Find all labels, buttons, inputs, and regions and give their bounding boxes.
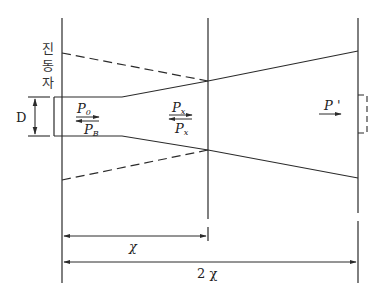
forward-pressure-label: Px <box>171 100 186 116</box>
output-pressure-label: P ' <box>323 98 340 113</box>
incident-pressure-label: P0 <box>76 101 91 117</box>
diameter-label: D <box>16 110 26 125</box>
vibrator-label-1: 진 <box>42 41 54 56</box>
tube-top-edge <box>54 51 358 97</box>
vibrator-label-3: 자 <box>42 75 54 90</box>
vibrator-label-2: 동 <box>42 58 54 73</box>
dashed-lower-left <box>62 150 208 180</box>
reflected-pressure-label: PB <box>83 122 99 138</box>
horn-diagram: D 진 동 자 P0 PB Px Px P ' χ 2 χ <box>0 0 388 295</box>
chi-label: χ <box>128 239 138 254</box>
backward-pressure-label: Px <box>174 121 189 137</box>
tube-bottom-edge <box>54 136 358 178</box>
dashed-upper-left <box>62 53 208 81</box>
two-chi-label: 2 χ <box>197 266 217 281</box>
output-box <box>358 95 367 133</box>
